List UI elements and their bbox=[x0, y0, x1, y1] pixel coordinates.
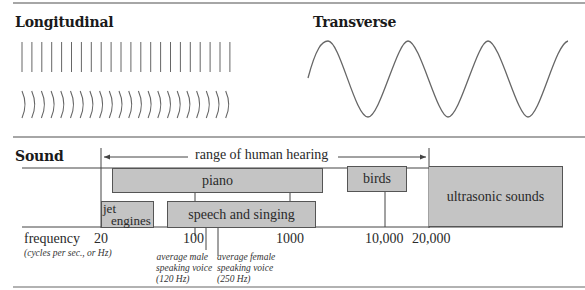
band-birds: birds bbox=[347, 166, 407, 192]
tick-100: 100 bbox=[183, 231, 204, 247]
band-jet-label-line2: engines bbox=[103, 214, 153, 227]
band-speech-label: speech and singing bbox=[188, 207, 295, 223]
band-birds-label: birds bbox=[363, 171, 391, 187]
annotation-female-line1: average female bbox=[217, 252, 275, 263]
band-ultrasonic-label: ultrasonic sounds bbox=[447, 189, 545, 205]
annotation-female-line3: (250 Hz) bbox=[217, 274, 275, 285]
band-speech-singing: speech and singing bbox=[167, 201, 316, 228]
axis-unit-note: (cycles per sec., or Hz) bbox=[24, 248, 112, 259]
annotation-male-voice: average male speaking voice (120 Hz) bbox=[156, 252, 208, 285]
transverse-sine-wave bbox=[308, 41, 568, 117]
longitudinal-straight-lines bbox=[22, 42, 230, 72]
band-ultrasonic: ultrasonic sounds bbox=[429, 166, 563, 227]
band-piano-label: piano bbox=[202, 173, 233, 189]
sound-title: Sound bbox=[15, 148, 64, 164]
band-jet-engines: jet engines bbox=[101, 201, 154, 228]
range-arrow-left-icon bbox=[104, 155, 110, 160]
range-arrow-right-icon bbox=[420, 155, 426, 160]
tick-20000: 20,000 bbox=[412, 231, 451, 247]
transverse-title: Transverse bbox=[313, 14, 396, 30]
annotation-male-line2: speaking voice bbox=[156, 263, 208, 274]
range-of-hearing-label: range of human hearing bbox=[193, 147, 330, 163]
annotation-female-line2: speaking voice bbox=[217, 263, 275, 274]
tick-1000: 1000 bbox=[276, 231, 304, 247]
band-piano: piano bbox=[112, 168, 323, 193]
annotation-male-line3: (120 Hz) bbox=[156, 274, 208, 285]
longitudinal-title: Longitudinal bbox=[15, 14, 113, 30]
longitudinal-arcs bbox=[22, 91, 229, 118]
annotation-female-voice: average female speaking voice (250 Hz) bbox=[217, 252, 275, 285]
axis-label-frequency: frequency bbox=[24, 231, 80, 247]
tick-20: 20 bbox=[94, 231, 108, 247]
tick-10000: 10,000 bbox=[365, 231, 404, 247]
annotation-male-line1: average male bbox=[156, 252, 208, 263]
